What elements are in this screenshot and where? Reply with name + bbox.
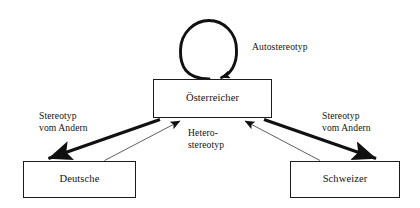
edge-label-stereotyp-vom-andern-left: Stereotyp vom Andern <box>39 110 88 134</box>
node-schweizer-label: Schweizer <box>323 173 368 185</box>
stereotype-diagram: Österreicher Deutsche Schweizer Autoster… <box>0 0 420 208</box>
node-schweizer: Schweizer <box>290 161 400 198</box>
node-deutsche-label: Deutsche <box>60 173 100 185</box>
hetero-line1: Hetero- <box>188 127 224 139</box>
hetero-line2: stereotyp <box>188 139 224 151</box>
stereotyp-left-line1: Stereotyp <box>39 110 88 122</box>
autostereotyp-text: Autostereotyp <box>252 41 308 52</box>
node-oesterreicher-label: Österreicher <box>186 92 239 104</box>
node-oesterreicher: Österreicher <box>153 79 272 118</box>
edge-label-stereotyp-vom-andern-right: Stereotyp vom Andern <box>322 110 371 134</box>
edge-self-loop-autostereotyp <box>180 21 236 80</box>
edge-label-heterostereotyp: Hetero- stereotyp <box>188 127 224 151</box>
stereotyp-right-line2: vom Andern <box>322 122 371 134</box>
stereotyp-right-line1: Stereotyp <box>322 110 371 122</box>
edge-label-autostereotyp: Autostereotyp <box>252 41 308 53</box>
node-deutsche: Deutsche <box>23 161 136 198</box>
stereotyp-left-line2: vom Andern <box>39 122 88 134</box>
